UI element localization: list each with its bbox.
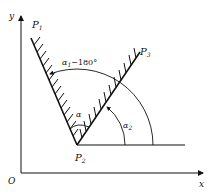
- alpha-label: α: [76, 110, 82, 119]
- alpha1-label: α1−180°: [62, 58, 97, 68]
- origin-label: O: [8, 176, 16, 186]
- angle-diagram: O x y P1 P3 P2 α α2 α1−180°: [0, 0, 217, 196]
- x-axis-label: x: [199, 179, 204, 189]
- p2-label: P2: [74, 152, 86, 164]
- p3-label: P3: [139, 46, 151, 58]
- hatch-p1: [34, 37, 78, 136]
- p1-label: P1: [31, 19, 43, 31]
- arc-alpha1: [50, 69, 153, 145]
- y-axis-label: y: [8, 11, 15, 21]
- alpha2-label: α2: [123, 121, 132, 131]
